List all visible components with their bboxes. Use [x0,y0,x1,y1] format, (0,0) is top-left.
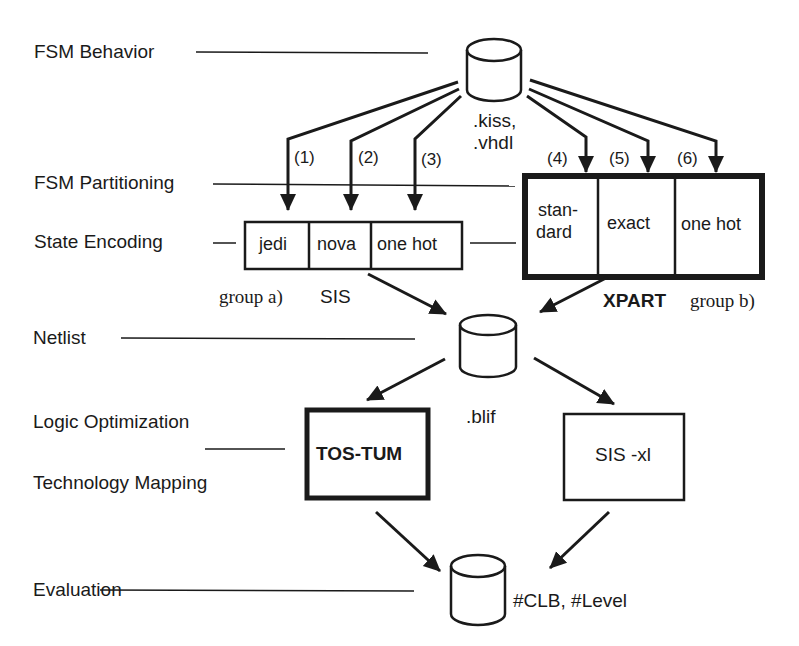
database-result-icon [451,555,505,625]
netlist-out-arrows [367,358,614,404]
path-label-2: (2) [358,148,379,168]
path-label-5: (5) [609,149,630,169]
optimizer-tos-tum: TOS-TUM [316,443,402,465]
result-db-label: #CLB, #Level [513,590,627,612]
stage-label-technology-mapping: Technology Mapping [33,472,207,494]
result-in-arrows [376,512,609,571]
optimizer-sis-xl: SIS -xl [595,444,651,466]
encoding-one-hot-a: one hot [377,234,437,255]
diagram-canvas [0,0,799,646]
source-arrows-group-a [288,82,461,210]
path-label-6: (6) [677,149,698,169]
encoding-standard-line2: dard [536,222,572,243]
encoding-one-hot-b: one hot [681,214,741,235]
group-b-caption: group b) [690,290,755,312]
stage-label-state-encoding: State Encoding [34,231,163,253]
encoding-nova: nova [317,234,356,255]
path-label-4: (4) [547,149,568,169]
encoding-exact: exact [607,213,650,234]
group-a-caption: group a) [219,286,283,308]
source-db-label-vhdl: .vhdl [473,132,513,154]
stage-label-fsm-partitioning: FSM Partitioning [34,172,174,194]
group-b-tool-xpart: XPART [603,290,666,312]
path-label-3: (3) [421,150,442,170]
encoding-standard-line1: stan- [538,200,578,221]
stage-label-fsm-behavior: FSM Behavior [34,41,154,63]
group-a-tool-sis: SIS [320,286,351,308]
stage-label-netlist: Netlist [33,327,86,349]
path-label-1: (1) [294,148,315,168]
stage-label-evaluation: Evaluation [33,579,122,601]
database-netlist-icon [460,315,516,377]
encoding-jedi: jedi [259,234,287,255]
stage-label-logic-optimization: Logic Optimization [33,411,189,433]
source-db-label-kiss: .kiss, [473,110,516,132]
database-source-icon [467,39,521,101]
netlist-db-label-blif: .blif [466,406,496,428]
